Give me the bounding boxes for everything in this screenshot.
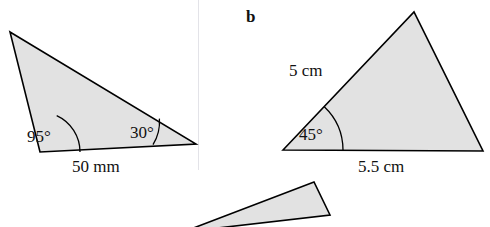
angle-30-label: 30° — [130, 124, 154, 141]
triangles-svg — [0, 0, 490, 227]
side-50mm-label: 50 mm — [72, 158, 120, 175]
side-5cm-label: 5 cm — [289, 62, 323, 79]
triangle-c — [183, 182, 330, 227]
label-b: b — [246, 8, 255, 25]
angle-95-label: 95° — [27, 128, 51, 145]
angle-45-label: 45° — [299, 126, 323, 143]
side-5-5cm-label: 5.5 cm — [358, 158, 404, 175]
diagram-stage: b 95° 30° 50 mm 45° 5 cm 5.5 cm — [0, 0, 490, 227]
